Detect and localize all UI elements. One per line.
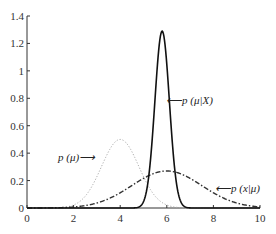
chart: 024681000.20.40.60.811.21.4 p (μ)⟶ ⟵p (μ…: [0, 0, 276, 234]
axes: [27, 16, 260, 208]
x-tick-label: 0: [24, 212, 30, 224]
annotation-posterior: ⟵p (μ|X): [166, 94, 213, 107]
y-tick-label: 0.4: [10, 147, 24, 159]
y-tick-label: 1: [19, 65, 25, 77]
x-tick-label: 8: [211, 212, 217, 224]
series-line-p-μ: [27, 139, 260, 208]
x-tick-label: 4: [117, 212, 123, 224]
y-tick-label: 1.4: [10, 10, 24, 22]
y-tick-label: 0.2: [10, 175, 24, 187]
y-tick-label: 0: [19, 202, 25, 214]
x-tick-label: 2: [71, 212, 77, 224]
x-tick-label: 10: [255, 212, 267, 224]
x-tick-label: 6: [164, 212, 170, 224]
annotation-prior: p (μ)⟶: [57, 151, 96, 164]
annotation-likelihood: ⟵p (x|μ): [215, 182, 260, 195]
y-tick-label: 0.6: [10, 120, 24, 132]
y-tick-label: 1.2: [10, 37, 24, 49]
y-tick-label: 0.8: [10, 92, 24, 104]
